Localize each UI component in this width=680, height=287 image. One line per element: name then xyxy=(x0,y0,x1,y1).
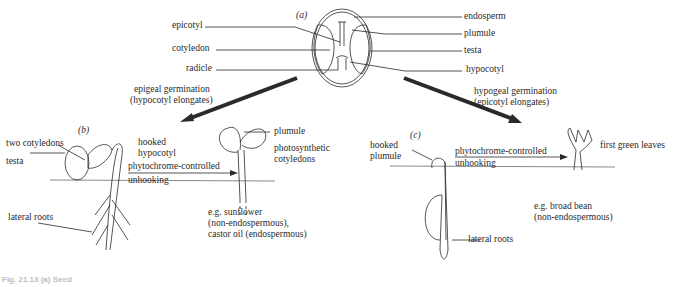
seed-section xyxy=(205,9,462,87)
label-lateral-roots-c: lateral roots xyxy=(468,234,513,245)
label-hooked-hypocotyl-1: hooked xyxy=(138,137,166,148)
epigeal-sublabel: (hypocotyl elongates) xyxy=(130,95,213,106)
label-hooked-hypocotyl-2: hypocotyl xyxy=(138,148,176,159)
panel-a-label: (a) xyxy=(296,10,307,21)
hypogeal-seedling-emerged xyxy=(568,128,592,170)
example-b-1: e.g. sunflower xyxy=(208,207,262,218)
epigeal-seedling xyxy=(30,144,130,250)
label-radicle: radicle xyxy=(186,63,212,74)
example-c-1: e.g. broad bean xyxy=(534,201,592,212)
label-phyto-b-2: unhooking xyxy=(128,175,169,186)
label-phyto-b-1: phytochrome-controlled xyxy=(128,161,220,172)
example-b-2: (non-endospermous), xyxy=(208,218,289,229)
hypogeal-sublabel: (epicotyl elongates) xyxy=(474,97,549,108)
example-b-3: castor oil (endospermous) xyxy=(208,229,307,240)
epigeal-label: epigeal germination xyxy=(134,84,210,95)
label-phyto-c-2: unhooking xyxy=(455,158,496,169)
label-cotyledon: cotyledon xyxy=(172,43,209,54)
label-testa-b: testa xyxy=(6,156,23,167)
label-plumule-b: plumule xyxy=(274,126,305,137)
hypogeal-label: hypogeal germination xyxy=(474,86,557,97)
example-c-2: (non-endospermous) xyxy=(534,212,613,223)
label-two-cotyledons: two cotyledons xyxy=(6,138,64,149)
germination-arrows xyxy=(180,78,522,123)
label-phyto-c-1: phytochrome-controlled xyxy=(455,146,547,157)
label-endosperm: endosperm xyxy=(464,11,506,22)
label-epicotyl: epicotyl xyxy=(172,20,203,31)
diagram-drawing xyxy=(0,0,680,287)
label-hypocotyl: hypocotyl xyxy=(466,64,504,75)
label-photosynthetic-2: cotyledons xyxy=(274,154,315,165)
label-plumule: plumule xyxy=(464,28,495,39)
label-testa: testa xyxy=(464,45,481,56)
label-lateral-roots-b: lateral roots xyxy=(8,212,53,223)
epigeal-seedling-emerged xyxy=(219,127,270,215)
label-hooked-plumule-2: plumule xyxy=(370,151,401,162)
label-hooked-plumule-1: hooked xyxy=(370,140,398,151)
panel-c-label: (c) xyxy=(410,130,421,141)
figure-caption: Fig. 21.13 (a) Seed xyxy=(2,275,72,284)
label-photosynthetic-1: photosynthetic xyxy=(274,143,330,154)
panel-b-label: (b) xyxy=(78,125,89,136)
label-first-green-leaves: first green leaves xyxy=(600,140,665,151)
